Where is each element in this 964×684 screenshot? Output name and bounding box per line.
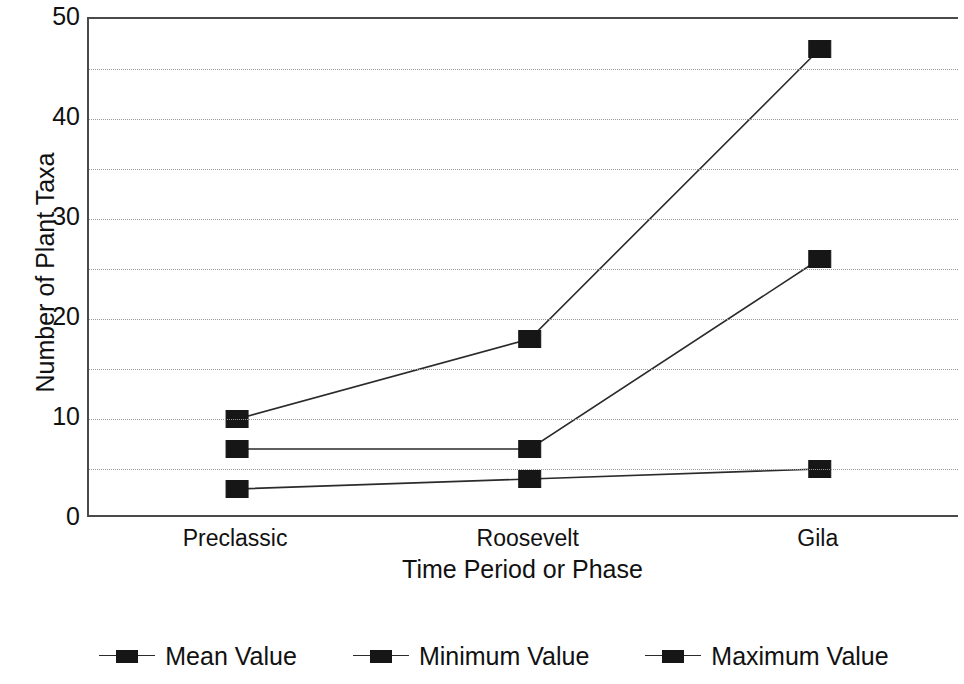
legend-item[interactable]: Minimum Value bbox=[353, 642, 589, 670]
legend-marker-icon bbox=[353, 646, 409, 666]
series-line bbox=[237, 259, 820, 449]
data-point-marker bbox=[519, 331, 541, 348]
x-axis-title: Time Period or Phase bbox=[87, 554, 958, 584]
gridline bbox=[89, 419, 958, 420]
y-axis-tick-label: 30 bbox=[6, 204, 80, 229]
gridline bbox=[89, 219, 958, 220]
gridline bbox=[89, 369, 958, 370]
data-point-marker bbox=[226, 441, 248, 458]
chart-figure: Number of Plant Taxa 01020304050 Preclas… bbox=[0, 0, 964, 684]
y-axis-tick-label: 20 bbox=[6, 304, 80, 329]
legend-label: Mean Value bbox=[165, 642, 297, 670]
gridline bbox=[89, 119, 958, 120]
x-axis-tick-label: Preclassic bbox=[105, 524, 365, 552]
y-axis-tick-labels: 01020304050 bbox=[0, 0, 80, 560]
legend-marker-icon bbox=[99, 646, 155, 666]
gridline bbox=[89, 69, 958, 70]
gridline bbox=[89, 319, 958, 320]
series-line bbox=[237, 49, 820, 419]
data-point-marker bbox=[226, 481, 248, 498]
gridline bbox=[89, 469, 958, 470]
legend-label: Minimum Value bbox=[419, 642, 589, 670]
data-point-marker bbox=[809, 251, 831, 268]
y-axis-tick-label: 10 bbox=[6, 404, 80, 429]
x-axis-tick-label: Roosevelt bbox=[398, 524, 658, 552]
y-axis-tick-label: 0 bbox=[6, 504, 80, 529]
plot-area bbox=[87, 17, 958, 517]
chart-legend: Mean ValueMinimum ValueMaximum Value bbox=[0, 636, 964, 676]
y-axis-tick-label: 50 bbox=[6, 4, 80, 29]
data-point-marker bbox=[519, 441, 541, 458]
data-point-marker bbox=[809, 41, 831, 58]
legend-item[interactable]: Mean Value bbox=[99, 642, 297, 670]
data-point-marker bbox=[519, 471, 541, 488]
legend-label: Maximum Value bbox=[711, 642, 888, 670]
gridline bbox=[89, 269, 958, 270]
legend-item[interactable]: Maximum Value bbox=[645, 642, 888, 670]
gridline bbox=[89, 169, 958, 170]
x-axis-tick-labels: PreclassicRooseveltGila bbox=[87, 524, 958, 558]
legend-marker-icon bbox=[645, 646, 701, 666]
y-axis-tick-label: 40 bbox=[6, 104, 80, 129]
x-axis-tick-label: Gila bbox=[688, 524, 948, 552]
